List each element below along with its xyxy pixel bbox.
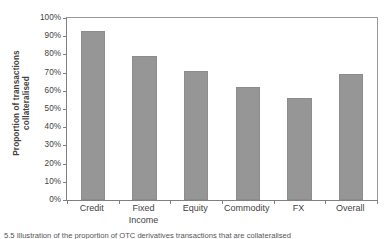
x-axis-tick-label-line: FX (293, 203, 305, 213)
x-axis-tick-label-line: Commodity (224, 203, 270, 213)
x-axis-tick-label-line: Income (118, 215, 170, 227)
x-axis-tick-label: FixedIncome (118, 203, 170, 226)
x-axis-tick-label: Credit (66, 203, 118, 215)
bars-layer (67, 18, 377, 200)
y-axis-tick-mark (63, 164, 67, 165)
y-axis-tick-label: 70% (30, 67, 61, 76)
y-axis-tick-label: 40% (30, 122, 61, 131)
y-axis-tick-mark (63, 127, 67, 128)
bar-equity (184, 71, 208, 200)
y-axis-tick-mark (63, 18, 67, 19)
y-axis-tick-mark (63, 73, 67, 74)
chart-figure: Proportion of transactions collateralise… (0, 0, 385, 239)
x-axis-tick-label-line: Overall (336, 203, 365, 213)
y-axis-tick-label: 30% (30, 140, 61, 149)
y-axis-tick-labels: 0%10%20%30%40%50%60%70%80%90%100% (30, 10, 61, 205)
y-axis-tick-label: 80% (30, 49, 61, 58)
y-axis-tick-mark (63, 109, 67, 110)
y-axis-tick-label: 0% (30, 195, 61, 204)
bar-fixed-income (132, 56, 156, 200)
x-axis-tick-label: Equity (169, 203, 221, 215)
y-axis-tick-label: 90% (30, 31, 61, 40)
y-axis-tick-mark (63, 91, 67, 92)
x-axis-tick-label-line: Credit (80, 203, 104, 213)
x-axis-tick-label: Commodity (221, 203, 273, 215)
bar-credit (81, 31, 105, 200)
y-axis-tick-mark (63, 36, 67, 37)
plot-area (66, 17, 378, 201)
x-axis-tick-label: FX (273, 203, 325, 215)
y-axis-tick-label: 100% (30, 13, 61, 22)
x-axis-tick-label-line: Equity (183, 203, 208, 213)
y-axis-tick-mark (63, 54, 67, 55)
y-axis-tick-mark (63, 182, 67, 183)
bar-fx (287, 98, 311, 200)
y-axis-tick-label: 10% (30, 176, 61, 185)
x-axis-tick-label: Overall (324, 203, 376, 215)
bar-commodity (236, 87, 260, 200)
figure-caption: 5.5 Illustration of the proportion of OT… (4, 231, 385, 239)
y-axis-tick-label: 50% (30, 104, 61, 113)
bar-overall (339, 74, 363, 200)
x-axis-tick-label-line: Fixed (132, 203, 154, 213)
y-axis-tick-mark (63, 145, 67, 146)
y-axis-title-line-1: Proportion of transactions (12, 50, 22, 155)
y-axis-tick-label: 60% (30, 85, 61, 94)
y-axis-tick-label: 20% (30, 158, 61, 167)
